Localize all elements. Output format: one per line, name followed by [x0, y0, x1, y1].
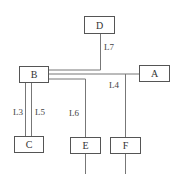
label-l6: L6	[69, 108, 79, 118]
node-a: A	[139, 65, 170, 82]
node-e: E	[70, 137, 101, 154]
node-b: B	[19, 66, 49, 83]
node-f: F	[110, 137, 141, 154]
node-c-label: C	[26, 139, 33, 150]
node-d-label: D	[96, 20, 103, 31]
node-a-label: A	[151, 68, 158, 79]
label-l5: L5	[35, 107, 45, 117]
link-l7	[48, 33, 101, 70]
node-b-label: B	[31, 69, 38, 80]
label-l3: L3	[13, 107, 23, 117]
label-l7: L7	[104, 42, 114, 52]
label-l4: L4	[109, 80, 119, 90]
link-l6	[48, 79, 86, 137]
node-f-label: F	[123, 140, 129, 151]
node-d: D	[84, 16, 115, 34]
node-c: C	[14, 136, 44, 153]
node-e-label: E	[82, 140, 88, 151]
